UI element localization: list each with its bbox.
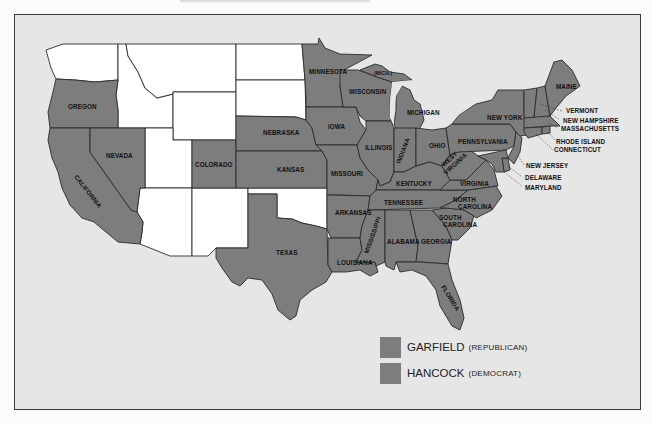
label-mich-upper: (MICH.) xyxy=(374,70,392,76)
label-michigan: MICHIGAN xyxy=(407,109,440,116)
label-alabama: ALABAMA xyxy=(387,238,420,245)
legend-party-garfield: (REPUBLICAN) xyxy=(469,343,528,352)
label-new-york: NEW YORK xyxy=(487,114,523,121)
label-maine: MAINE xyxy=(556,83,577,90)
label-kentucky: KENTUCKY xyxy=(396,180,432,187)
label-new-hampshire: NEW HAMPSHIRE xyxy=(563,117,619,124)
label-south-carolina-1: SOUTH xyxy=(439,214,462,221)
label-massachusetts: MASSACHUSETTS xyxy=(561,125,619,132)
label-colorado: COLORADO xyxy=(195,161,233,168)
label-ohio: OHIO xyxy=(429,142,446,149)
us-election-map: OREGON NEVADA CALIFORNIA COLORADO NEBRAS… xyxy=(0,0,652,424)
label-missouri: MISSOURI xyxy=(331,170,363,177)
label-delaware: DELAWARE xyxy=(525,174,561,181)
label-maryland: MARYLAND xyxy=(525,184,562,191)
legend-swatch-garfield xyxy=(380,337,401,358)
legend-item-hancock: HANCOCK (DEMOCRAT) xyxy=(380,362,527,384)
label-texas: TEXAS xyxy=(276,249,298,256)
label-illinois: ILLINOIS xyxy=(365,144,392,151)
state-north-dakota[interactable] xyxy=(236,44,305,80)
label-connecticut: CONNECTICUT xyxy=(554,146,601,153)
label-minnesota: MINNESOTA xyxy=(309,68,348,75)
state-washington[interactable] xyxy=(46,44,118,82)
label-vermont: VERMONT xyxy=(566,107,598,114)
legend-item-garfield: GARFIELD (REPUBLICAN) xyxy=(380,336,527,358)
legend-swatch-hancock xyxy=(380,363,401,384)
label-pennsylvania: PENNSYLVANIA xyxy=(458,138,508,145)
state-connecticut[interactable] xyxy=(524,127,542,138)
label-kansas: KANSAS xyxy=(277,166,304,173)
label-oregon: OREGON xyxy=(68,103,97,110)
label-nevada: NEVADA xyxy=(106,152,133,159)
label-georgia: GEORGIA xyxy=(421,238,452,245)
label-iowa: IOWA xyxy=(328,123,346,130)
state-arizona[interactable] xyxy=(137,188,192,256)
state-south-dakota[interactable] xyxy=(236,80,306,120)
legend-party-hancock: (DEMOCRAT) xyxy=(469,369,522,378)
state-new-mexico[interactable] xyxy=(192,188,248,256)
label-north-carolina-2: CAROLINA xyxy=(458,203,492,210)
label-louisiana: LOUISIANA xyxy=(337,259,373,266)
legend-name-hancock: HANCOCK xyxy=(407,367,465,379)
label-nebraska: NEBRASKA xyxy=(263,129,300,136)
label-new-jersey: NEW JERSEY xyxy=(526,162,569,169)
legend-name-garfield: GARFIELD xyxy=(407,341,465,353)
label-wisconsin: WISCONSIN xyxy=(349,88,387,95)
state-massachusetts[interactable] xyxy=(524,116,560,128)
legend: GARFIELD (REPUBLICAN) HANCOCK (DEMOCRAT) xyxy=(380,336,527,388)
label-tennessee: TENNESSEE xyxy=(384,199,423,206)
state-wyoming[interactable] xyxy=(173,92,236,140)
label-north-carolina-1: NORTH xyxy=(453,196,476,203)
label-virginia: VIRGINIA xyxy=(460,180,489,187)
label-south-carolina-2: CAROLINA xyxy=(443,221,477,228)
label-rhode-island: RHODE ISLAND xyxy=(556,138,605,145)
label-arkansas: ARKANSAS xyxy=(335,209,371,216)
